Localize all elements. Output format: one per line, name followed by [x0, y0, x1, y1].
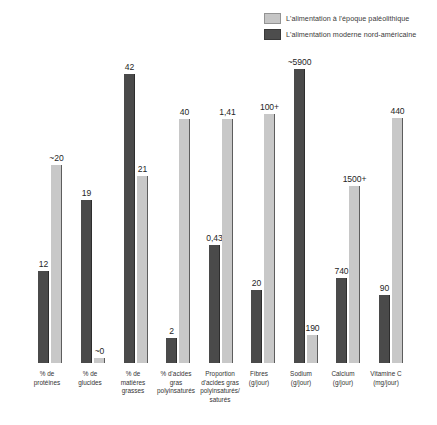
bar-rect: [336, 278, 347, 363]
bar-dark-group-3: 2: [166, 322, 177, 363]
bar-light-group-2: 21: [137, 160, 148, 363]
bar-value-label: 440: [390, 106, 404, 116]
bar-dark-group-2: 42: [124, 58, 135, 363]
bar-value-label: 1,41: [219, 107, 235, 117]
bar-dark-group-7: 740: [336, 262, 347, 363]
bar-value-label: ~5900: [288, 57, 312, 67]
bar-dark-group-6: ~5900: [294, 53, 305, 363]
bar-value-label: ~0: [95, 346, 105, 356]
bar-light-group-1: ~0: [94, 342, 105, 363]
bar-value-label: 21: [138, 164, 147, 174]
legend-label-paleolithique: L'alimentation à l'époque paléolithique: [286, 14, 409, 23]
bar-rect: [264, 114, 275, 363]
bar-rect: [307, 335, 318, 363]
bar-rect: [392, 118, 403, 363]
bar-rect: [379, 295, 390, 363]
bar-rect: [124, 74, 135, 363]
legend-swatch-light-icon: [264, 13, 281, 24]
bar-value-label: 190: [305, 323, 319, 333]
plot-area: 12~2019~042212400,431,4120100+~590019074…: [0, 44, 437, 363]
bar-light-group-3: 40: [179, 103, 190, 363]
bar-value-label: 19: [82, 188, 91, 198]
bar-light-group-4: 1,41: [222, 103, 233, 363]
x-axis-label-8: Vitamine C(mg/jour): [355, 370, 417, 387]
bar-rect: [251, 290, 262, 363]
legend-item-paleolithique: L'alimentation à l'époque paléolithique: [264, 12, 437, 25]
bar-value-label: 740: [334, 266, 348, 276]
bar-dark-group-0: 12: [38, 255, 49, 363]
bar-rect: [209, 245, 220, 363]
bar-value-label: 20: [252, 278, 261, 288]
bar-rect: [222, 119, 233, 363]
legend-swatch-dark-icon: [264, 29, 281, 40]
bar-rect: [166, 338, 177, 363]
bar-dark-group-1: 19: [81, 184, 92, 363]
legend-label-moderne: L'alimentation moderne nord-américaine: [286, 30, 416, 39]
bar-value-label: ~20: [49, 153, 63, 163]
bar-dark-group-8: 90: [379, 279, 390, 363]
bar-rect: [179, 119, 190, 363]
bar-value-label: 90: [380, 283, 389, 293]
bar-value-label: 42: [125, 62, 134, 72]
bar-rect: [294, 69, 305, 363]
bar-rect: [349, 186, 360, 363]
bar-light-group-0: ~20: [51, 149, 62, 363]
bar-light-group-5: 100+: [264, 98, 275, 363]
bar-value-label: 2: [169, 326, 174, 336]
bar-dark-group-4: 0,43: [209, 229, 220, 363]
bar-dark-group-5: 20: [251, 274, 262, 363]
bar-light-group-8: 440: [392, 102, 403, 363]
x-axis-labels: % deprotéines% deglucides% dematièresgra…: [0, 370, 437, 425]
bar-value-label: 1500+: [343, 174, 367, 184]
bar-rect: [51, 165, 62, 363]
bar-rect: [81, 200, 92, 363]
bar-light-group-7: 1500+: [349, 170, 360, 363]
bar-rect: [137, 176, 148, 363]
bar-light-group-6: 190: [307, 319, 318, 363]
chart-container: L'alimentation à l'époque paléolithique …: [0, 0, 437, 425]
bar-value-label: 12: [39, 259, 48, 269]
bar-value-label: 100+: [260, 102, 279, 112]
bar-value-label: 0,43: [206, 233, 222, 243]
legend-item-moderne: L'alimentation moderne nord-américaine: [264, 28, 437, 41]
bar-value-label: 40: [180, 107, 189, 117]
chart-legend: L'alimentation à l'époque paléolithique …: [264, 12, 437, 44]
bar-rect: [38, 271, 49, 363]
bar-rect: [94, 358, 105, 363]
